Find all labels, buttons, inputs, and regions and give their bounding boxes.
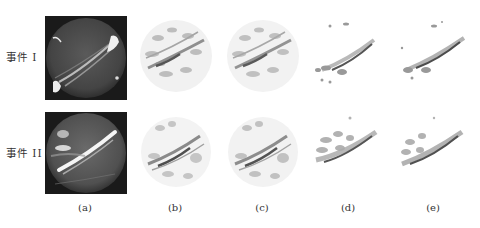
panel-event2-a bbox=[45, 112, 127, 194]
panel-event1-d bbox=[312, 20, 388, 90]
panel-event2-c bbox=[225, 114, 301, 190]
row-label-event-2: 事件 II bbox=[6, 145, 43, 160]
panel-event1-e bbox=[398, 20, 474, 90]
col-label-e: (e) bbox=[418, 202, 448, 213]
col-label-d: (d) bbox=[333, 202, 363, 213]
panel-event2-e bbox=[396, 114, 472, 186]
col-label-b: (b) bbox=[160, 202, 190, 213]
col-label-c: (c) bbox=[247, 202, 277, 213]
panel-event1-b bbox=[138, 18, 214, 96]
panel-event2-b bbox=[138, 114, 214, 190]
panel-event1-a bbox=[45, 16, 127, 100]
panel-event1-c bbox=[225, 18, 301, 96]
figure: 事件 I 事件 II bbox=[0, 0, 480, 228]
col-label-a: (a) bbox=[70, 202, 100, 213]
panel-event2-d bbox=[310, 114, 386, 186]
row-label-event-1: 事件 I bbox=[6, 49, 38, 64]
